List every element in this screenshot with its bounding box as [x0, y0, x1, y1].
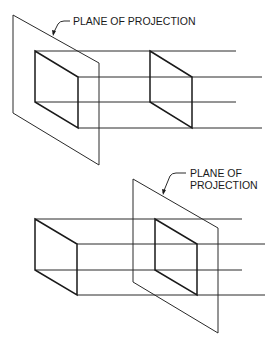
arrowhead-icon: [52, 30, 56, 36]
leader-line: [53, 21, 70, 34]
bottom-figure: PLANE OF PROJECTION: [35, 167, 265, 333]
arrowhead-icon: [162, 189, 166, 195]
projection-diagram: PLANE OF PROJECTION PLANE OF PROJECTION: [0, 0, 273, 343]
plane-of-projection: [133, 179, 218, 333]
plane-label-line1: PLANE OF: [190, 167, 242, 179]
object-front-face: [35, 219, 77, 295]
object-front-face: [35, 51, 78, 128]
leader-line: [163, 173, 186, 193]
top-figure: PLANE OF PROJECTION: [13, 15, 262, 165]
projected-view: [150, 51, 192, 128]
plane-label: PLANE OF PROJECTION: [73, 15, 196, 27]
projected-view: [155, 219, 197, 295]
plane-of-projection: [13, 15, 99, 165]
plane-label-line2: PROJECTION: [190, 179, 258, 191]
